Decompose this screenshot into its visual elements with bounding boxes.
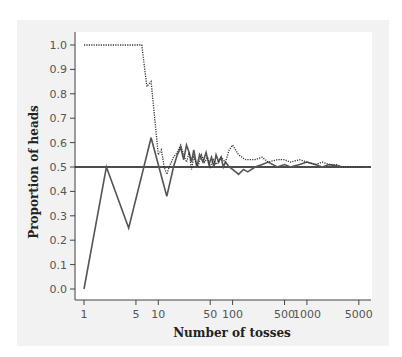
x-tick-label: 50 <box>203 308 217 321</box>
y-tick-label: 0.2 <box>50 234 68 247</box>
y-tick-label: 0.9 <box>50 63 68 76</box>
y-tick-label: 0.3 <box>50 210 68 223</box>
y-tick-label: 0.4 <box>50 185 68 198</box>
y-tick-label: 0.8 <box>50 88 68 101</box>
y-tick-label: 0.7 <box>50 112 68 125</box>
y-tick-label: 1.0 <box>50 39 68 52</box>
x-tick-label: 500 <box>274 308 295 321</box>
x-tick-label: 1 <box>81 308 88 321</box>
y-tick-label: 0.6 <box>50 137 68 150</box>
y-axis: 0.00.10.20.30.40.50.60.70.80.91.0 <box>50 32 76 300</box>
y-axis-title: Proportion of heads <box>27 105 41 239</box>
y-tick-label: 0.1 <box>50 259 68 272</box>
x-tick-label: 5 <box>132 308 139 321</box>
x-axis: 15105010050010005000 <box>75 300 373 321</box>
y-tick-label: 0.5 <box>50 161 68 174</box>
x-tick-label: 1000 <box>293 308 321 321</box>
x-axis-title: Number of tosses <box>173 326 291 340</box>
y-tick-label: 0.0 <box>50 283 68 296</box>
x-tick-label: 100 <box>222 308 243 321</box>
line-chart: 0.00.10.20.30.40.50.60.70.80.91.0 151050… <box>0 0 402 357</box>
x-tick-label: 10 <box>151 308 165 321</box>
x-tick-label: 5000 <box>345 308 373 321</box>
